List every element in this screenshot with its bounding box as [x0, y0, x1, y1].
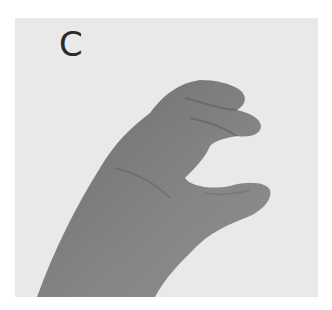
- hand-photo: C: [15, 18, 318, 297]
- letter-label: C: [59, 27, 83, 61]
